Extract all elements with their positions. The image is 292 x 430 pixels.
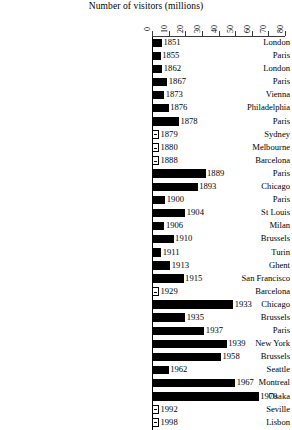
bar-row: Philadelphia1876 xyxy=(0,102,292,115)
bar xyxy=(152,169,206,178)
x-axis-tick-label: 20 xyxy=(177,25,185,33)
bar-row: Paris1855 xyxy=(0,50,292,63)
bar xyxy=(152,287,159,296)
bar xyxy=(152,52,161,61)
bar-value-label: 1992 xyxy=(159,404,178,416)
bar-value-label: 1904 xyxy=(185,207,204,219)
x-axis-tick-label: 30 xyxy=(194,25,202,33)
bar-row: London1851 xyxy=(0,37,292,50)
bar-value-label: 1937 xyxy=(204,325,223,337)
x-axis-tick-label: 0 xyxy=(144,27,152,31)
bar-value-label: 1893 xyxy=(198,181,217,193)
bar xyxy=(152,379,235,388)
bar xyxy=(152,143,159,152)
bar-row: Lisbon1998 xyxy=(0,417,292,430)
bar xyxy=(152,209,185,218)
bar-row: Barcelona1888 xyxy=(0,155,292,168)
bar-row: Osaka1970 xyxy=(0,391,292,404)
bar-row: Paris1900 xyxy=(0,194,292,207)
bar-value-label: 1970 xyxy=(259,391,278,403)
bar-row: Ghent1913 xyxy=(0,260,292,273)
bar-row: Vienna1873 xyxy=(0,89,292,102)
chart-title: Number of visitors (millions) xyxy=(0,1,292,11)
bar-value-label: 1998 xyxy=(159,417,178,429)
x-axis-tick-label: 10 xyxy=(161,25,169,33)
bar-value-label: 1880 xyxy=(159,142,178,154)
bar-value-label: 1879 xyxy=(159,129,178,141)
bar xyxy=(152,78,167,87)
x-axis-tick-label: 80 xyxy=(277,25,285,33)
bar-value-label: 1933 xyxy=(233,299,252,311)
bar xyxy=(152,248,161,257)
bar-value-label: 1862 xyxy=(162,63,181,75)
bar xyxy=(152,405,159,414)
bar-value-label: 1888 xyxy=(159,155,178,167)
x-axis-tick-label: 60 xyxy=(244,25,252,33)
x-axis-tick-label: 70 xyxy=(260,25,268,33)
bar xyxy=(152,91,164,100)
bar xyxy=(152,366,169,375)
bar xyxy=(152,300,233,309)
x-axis: 01020304050607080 xyxy=(0,14,292,36)
bar-row: London1862 xyxy=(0,63,292,76)
bar-value-label: 1911 xyxy=(161,247,179,259)
bar-row: Brussels1935 xyxy=(0,312,292,325)
bar xyxy=(152,65,162,74)
bar-row: San Francisco1915 xyxy=(0,273,292,286)
bar-row: Brussels1958 xyxy=(0,351,292,364)
bar xyxy=(152,274,184,283)
bar-value-label: 1867 xyxy=(167,76,186,88)
bar-row: Milan1906 xyxy=(0,220,292,233)
bar xyxy=(152,156,159,165)
bar-value-label: 1967 xyxy=(235,377,254,389)
bar-value-label: 1851 xyxy=(162,37,181,49)
bar-value-label: 1913 xyxy=(170,260,189,272)
bar xyxy=(152,104,169,113)
bar-value-label: 1906 xyxy=(164,220,183,232)
bar-value-label: 1855 xyxy=(161,50,180,62)
bar xyxy=(152,130,159,139)
bar xyxy=(152,39,162,48)
bar-value-label: 1910 xyxy=(174,233,193,245)
bar-row: Seville1992 xyxy=(0,404,292,417)
bar-row: Turin1911 xyxy=(0,247,292,260)
bar xyxy=(152,117,179,126)
bar-row: Brussels1910 xyxy=(0,233,292,246)
bar-row: Paris1889 xyxy=(0,168,292,181)
bar-value-label: 1915 xyxy=(184,273,203,285)
bar xyxy=(152,327,204,336)
bar xyxy=(152,313,185,322)
bar-row: Chicago1893 xyxy=(0,181,292,194)
bar-value-label: 1939 xyxy=(227,338,246,350)
bar-row: Barcelona1929 xyxy=(0,286,292,299)
bar-value-label: 1878 xyxy=(179,116,198,128)
bar-value-label: 1900 xyxy=(165,194,184,206)
bar xyxy=(152,222,164,231)
bar-value-label: 1929 xyxy=(159,286,178,298)
bar xyxy=(152,183,198,192)
bar-value-label: 1962 xyxy=(169,364,188,376)
bar-row: Paris1937 xyxy=(0,325,292,338)
bar-row: Paris1867 xyxy=(0,76,292,89)
bar xyxy=(152,196,165,205)
bar xyxy=(152,418,159,427)
bar-value-label: 1889 xyxy=(206,168,225,180)
bar-value-label: 1958 xyxy=(221,351,240,363)
x-axis-tick-mark xyxy=(285,31,286,36)
bar-row: St Louis1904 xyxy=(0,207,292,220)
bar-value-label: 1876 xyxy=(169,102,188,114)
x-axis-tick-label: 40 xyxy=(211,25,219,33)
bar-row: Montreal1967 xyxy=(0,377,292,390)
bar xyxy=(152,261,170,270)
x-axis-tick-label: 50 xyxy=(227,25,235,33)
bar-value-label: 1935 xyxy=(185,312,204,324)
bar-row: Seattle1962 xyxy=(0,364,292,377)
bar-row: Sydney1879 xyxy=(0,129,292,142)
bar-row: Chicago1933 xyxy=(0,299,292,312)
bar xyxy=(152,235,174,244)
plot-area: London1851Paris1855London1862Paris1867Vi… xyxy=(0,37,292,430)
bar-row: New York1939 xyxy=(0,338,292,351)
bar-value-label: 1873 xyxy=(164,89,183,101)
bar xyxy=(152,353,221,362)
